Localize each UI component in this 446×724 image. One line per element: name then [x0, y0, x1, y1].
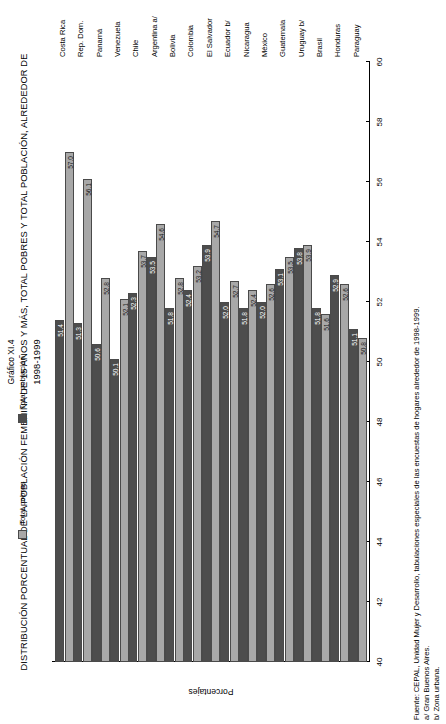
bar-group: 50.152.1Venezuela [110, 62, 128, 662]
bar-total-pobres: 52.7 [230, 281, 239, 662]
bar-total-pobres: 53.2 [193, 266, 202, 662]
bar-total-pobres: 57.0 [65, 152, 74, 662]
bar-total-pobres: 51.6 [321, 314, 330, 662]
category-label: Panamá [96, 29, 104, 57]
axis-tick-label: 44 [376, 531, 384, 553]
bar-total-poblacion: 53.1 [275, 269, 284, 662]
bar-total-poblacion: 52.4 [183, 290, 192, 662]
bar-total-poblacion: 50.6 [92, 344, 101, 662]
bar-total-poblacion: 53.8 [294, 248, 303, 662]
category-label: Bolivia [169, 35, 177, 57]
category-label: Paraguay [353, 24, 361, 57]
bar-total-poblacion: 51.3 [73, 323, 82, 662]
category-label: Rep. Dom. [77, 21, 85, 57]
chart-legend: Total pobresTotal población [18, 356, 27, 539]
bar-total-pobres: 53.5 [285, 257, 294, 662]
axis-tick-label: 46 [376, 471, 384, 493]
bar-total-pobres: 52.1 [120, 299, 129, 662]
bar-total-poblacion: 52.0 [257, 302, 266, 662]
bar-group: 52.052.7Ecuador b/ [220, 62, 238, 662]
category-label: Argentina a/ [151, 16, 159, 57]
bar-group: 52.952.6Honduras [330, 62, 348, 662]
bar-total-pobres: 52.6 [266, 284, 275, 662]
legend-swatch-icon [18, 530, 27, 539]
bar-total-pobres: 52.6 [340, 284, 349, 662]
bar-group: 51.356.1Rep. Dom. [73, 62, 91, 662]
category-label: Brasil [316, 38, 324, 57]
bar-total-poblacion: 51.4 [55, 320, 64, 662]
category-label: Ecuador b/ [224, 20, 232, 57]
legend-item-total-pobres: Total pobres [18, 481, 27, 539]
bar-value-label: 50.8 [360, 342, 367, 355]
page-subtitle: 1998-1999 [31, 0, 43, 724]
bar-total-poblacion: 52.3 [128, 293, 137, 662]
bar-value-label: 52.3 [130, 297, 137, 310]
axis-tick-label: 50 [376, 351, 384, 373]
bar-total-pobres: 50.8 [358, 338, 367, 662]
legend-swatch-icon [18, 414, 27, 423]
bar-group: 51.150.8Paraguay [349, 62, 367, 662]
bar-total-poblacion: 53.5 [147, 257, 156, 662]
bar-total-poblacion: 53.9 [202, 245, 211, 662]
category-axis-line [369, 62, 370, 662]
bar-total-pobres: 52.8 [101, 278, 110, 662]
bar-group: 52.052.6México [257, 62, 275, 662]
category-label: Honduras [334, 24, 342, 57]
plot-area: Porcentajes 404244464850525456586051.457… [52, 62, 370, 662]
category-label: El Salvador [206, 18, 214, 57]
footer-source: Fuente: CEPAL, Unidad Mujer y Desarrollo… [412, 4, 422, 720]
bar-total-pobres: 54.7 [211, 221, 220, 662]
footer-note-a: a/ Gran Buenos Aires. [422, 4, 432, 720]
axis-tick-label: 52 [376, 291, 384, 313]
bar-value-label: 51.8 [241, 312, 248, 325]
category-label: Nicaragua [243, 22, 251, 57]
category-label: Guatemala [279, 20, 287, 57]
chart-footer: Fuente: CEPAL, Unidad Mujer y Desarrollo… [412, 4, 442, 720]
figure-number: Gráfico XI.4 [6, 0, 17, 724]
category-label: Colombia [187, 25, 195, 57]
bar-group: 53.853.9Uruguay b/ [294, 62, 312, 662]
bar-group: 51.851.6Brasil [312, 62, 330, 662]
bar-value-label: 50.6 [94, 348, 101, 361]
category-label: Uruguay b/ [298, 20, 306, 57]
bar-total-poblacion: 52.0 [220, 302, 229, 662]
bar-total-pobres: 53.9 [303, 245, 312, 662]
chart-canvas: Gráfico XI.4 DISTRIBUCIÓN PORCENTUAL DE … [0, 0, 446, 724]
category-label: Venezuela [114, 22, 122, 57]
bar-value-label: 51.4 [57, 324, 64, 337]
bar-total-poblacion: 51.8 [165, 308, 174, 662]
bar-value-label: 52.9 [332, 279, 339, 292]
axis-title-porcentajes: Porcentajes [189, 687, 234, 697]
bar-total-pobres: 52.8 [175, 278, 184, 662]
bar-total-pobres: 56.1 [83, 179, 92, 662]
bar-value-label: 53.9 [204, 249, 211, 262]
bar-group: 51.852.4Nicaragua [239, 62, 257, 662]
legend-label: Total pobres [18, 481, 27, 525]
bar-value-label: 53.8 [296, 252, 303, 265]
bar-value-label: 51.8 [314, 312, 321, 325]
bar-group: 52.353.7Chile [128, 62, 146, 662]
axis-tick-label: 60 [376, 51, 384, 73]
bar-value-label: 53.5 [149, 261, 156, 274]
bar-total-poblacion: 51.8 [239, 308, 248, 662]
bar-value-label: 53.1 [277, 273, 284, 286]
legend-item-total-poblacion: Total población [18, 356, 27, 423]
bar-group: 51.852.8Bolivia [165, 62, 183, 662]
bar-total-pobres: 53.7 [138, 251, 147, 662]
axis-tick-label: 42 [376, 591, 384, 613]
bar-value-label: 51.8 [167, 312, 174, 325]
bar-group: 53.954.7El Salvador [202, 62, 220, 662]
bar-total-poblacion: 51.8 [312, 308, 321, 662]
bar-total-poblacion: 51.1 [349, 329, 358, 662]
category-label: México [261, 33, 269, 57]
bar-group: 53.554.6Argentina a/ [147, 62, 165, 662]
bar-group: 53.153.5Guatemala [275, 62, 293, 662]
axis-tick-label: 54 [376, 231, 384, 253]
bar-value-label: 50.1 [112, 363, 119, 376]
bar-group: 51.457.0Costa Rica [55, 62, 73, 662]
bar-total-pobres: 52.4 [248, 290, 257, 662]
axis-tick-label: 56 [376, 171, 384, 193]
bar-value-label: 52.0 [222, 306, 229, 319]
axis-tick-label: 48 [376, 411, 384, 433]
category-label: Costa Rica [59, 20, 67, 57]
